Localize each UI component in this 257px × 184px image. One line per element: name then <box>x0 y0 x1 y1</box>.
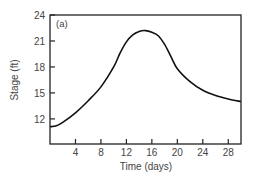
x-tick-label: 12 <box>121 147 133 158</box>
x-tick-label: 24 <box>197 147 209 158</box>
y-tick-label: 24 <box>34 10 46 21</box>
y-tick-label: 15 <box>34 88 46 99</box>
x-tick-label: 20 <box>172 147 184 158</box>
x-tick-label: 8 <box>98 147 104 158</box>
y-axis-label: Stage (ft) <box>9 59 20 100</box>
plot-area <box>50 31 241 127</box>
stage-curve <box>50 31 241 127</box>
plot-frame <box>50 15 241 144</box>
x-tick-label: 16 <box>146 147 158 158</box>
x-axis-label: Time (days) <box>120 161 172 172</box>
y-tick-label: 18 <box>34 62 46 73</box>
y-tick-label: 12 <box>34 114 46 125</box>
stage-chart: 4812162024281215182124 (a) Time (days) S… <box>0 0 257 184</box>
x-tick-label: 4 <box>73 147 79 158</box>
panel-label: (a) <box>56 18 68 29</box>
y-tick-label: 21 <box>34 36 46 47</box>
x-tick-label: 28 <box>223 147 235 158</box>
